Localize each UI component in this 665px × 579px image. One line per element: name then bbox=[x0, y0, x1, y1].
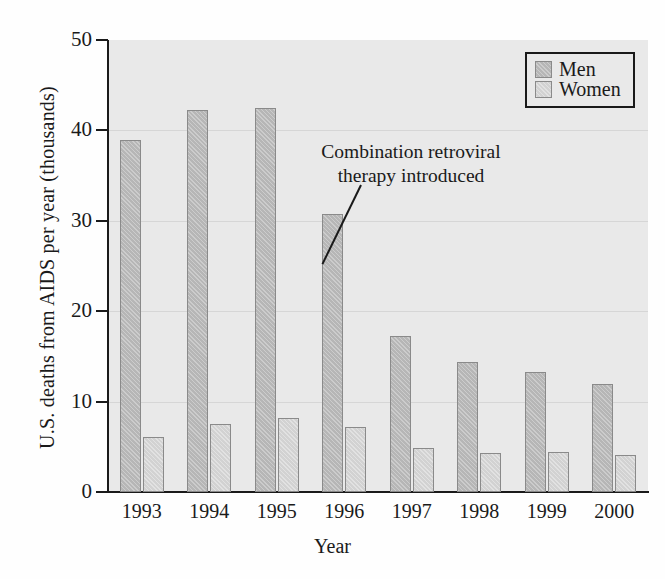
y-axis-line bbox=[107, 40, 109, 493]
x-tick-label-1997: 1997 bbox=[377, 500, 447, 523]
x-tick-label-1998: 1998 bbox=[444, 500, 514, 523]
x-tick-label-1999: 1999 bbox=[512, 500, 582, 523]
legend: Men Women bbox=[525, 52, 635, 108]
x-axis-title: Year bbox=[0, 535, 665, 558]
bar-men-1999 bbox=[525, 372, 546, 492]
x-tick-label-1995: 1995 bbox=[242, 500, 312, 523]
bar-women-1999 bbox=[548, 452, 569, 492]
bar-men-1995 bbox=[255, 108, 276, 492]
y-axis-title: U.S. deaths from AIDS per year (thousand… bbox=[36, 33, 59, 503]
bar-women-1994 bbox=[210, 424, 231, 492]
y-tick-mark bbox=[96, 491, 108, 493]
bar-women-1995 bbox=[278, 418, 299, 492]
legend-label-women: Women bbox=[559, 79, 621, 99]
bar-men-1997 bbox=[390, 336, 411, 492]
x-tick-label-1993: 1993 bbox=[107, 500, 177, 523]
y-tick-mark bbox=[96, 401, 108, 403]
y-tick-label: 10 bbox=[2, 391, 92, 412]
aids-deaths-bar-chart: U.S. deaths from AIDS per year (thousand… bbox=[0, 0, 665, 579]
legend-label-men: Men bbox=[559, 59, 596, 79]
y-tick-label: 20 bbox=[2, 300, 92, 321]
bar-men-1993 bbox=[120, 140, 141, 492]
annotation-line-1: Combination retroviral bbox=[286, 140, 536, 164]
bar-women-1997 bbox=[413, 448, 434, 492]
y-tick-mark bbox=[96, 220, 108, 222]
annotation-line-2: therapy introduced bbox=[286, 164, 536, 188]
x-tick-label-1996: 1996 bbox=[309, 500, 379, 523]
legend-swatch-men-icon bbox=[535, 61, 552, 78]
annotation-text: Combination retroviral therapy introduce… bbox=[286, 140, 536, 188]
y-tick-mark bbox=[96, 310, 108, 312]
bar-men-1998 bbox=[457, 362, 478, 492]
bar-women-2000 bbox=[615, 455, 636, 492]
y-tick-label: 50 bbox=[2, 29, 92, 50]
y-tick-label: 40 bbox=[2, 119, 92, 140]
bar-men-1994 bbox=[187, 110, 208, 492]
legend-swatch-women-icon bbox=[535, 81, 552, 98]
bar-women-1998 bbox=[480, 453, 501, 492]
y-tick-label: 30 bbox=[2, 210, 92, 231]
x-tick-label-2000: 2000 bbox=[579, 500, 649, 523]
legend-item-men: Men bbox=[535, 59, 621, 79]
y-tick-mark bbox=[96, 129, 108, 131]
bar-women-1993 bbox=[143, 437, 164, 492]
y-tick-mark bbox=[96, 39, 108, 41]
legend-item-women: Women bbox=[535, 79, 621, 99]
bar-men-2000 bbox=[592, 384, 613, 492]
bar-women-1996 bbox=[345, 427, 366, 492]
x-tick-label-1994: 1994 bbox=[174, 500, 244, 523]
y-tick-label: 0 bbox=[2, 481, 92, 502]
